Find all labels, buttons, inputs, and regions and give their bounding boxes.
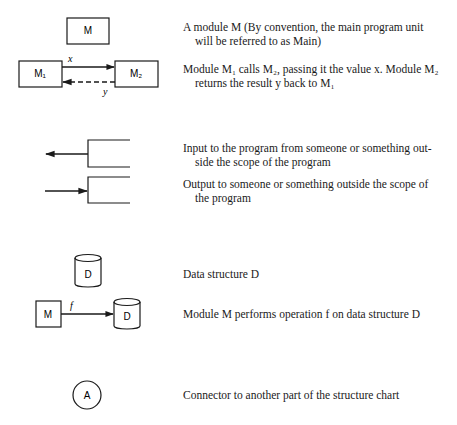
operation-description: Module M performs operation f on data st… <box>183 307 453 321</box>
call-desc-line1: Module M₁ calls M₂, passing it the value… <box>183 63 438 75</box>
operation-desc-line1: Module M performs operation f on data st… <box>183 308 420 320</box>
data-structure-description: Data structure D <box>183 267 453 281</box>
output-desc-line1: Output to someone or something outside t… <box>183 178 428 190</box>
call-desc-line2: returns the result y back to M₁ <box>183 76 453 90</box>
param-label: x <box>67 53 73 64</box>
data-structure-label: D <box>84 269 91 280</box>
connector-symbol: A <box>73 381 101 409</box>
operation-ds-label: D <box>123 311 130 322</box>
call-description: Module M₁ calls M₂, passing it the value… <box>183 62 453 90</box>
input-desc-line2: side the scope of the program <box>183 155 453 169</box>
output-symbol <box>45 177 130 203</box>
return-label: y <box>102 86 108 97</box>
operation-module-label: M <box>44 309 52 320</box>
input-description: Input to the program from someone or som… <box>183 141 453 169</box>
data-structure-symbol: D <box>75 255 101 288</box>
operation-symbol: M f D <box>36 299 140 330</box>
module-desc-line2: will be referred to as Main) <box>183 34 453 48</box>
input-symbol <box>46 140 130 167</box>
connector-label: A <box>84 390 91 401</box>
module-label: M <box>84 25 92 36</box>
output-desc-line2: the program <box>183 191 453 205</box>
module-desc-line1: A module M (By convention, the main prog… <box>183 21 424 33</box>
input-desc-line1: Input to the program from someone or som… <box>183 142 431 154</box>
output-description: Output to someone or something outside t… <box>183 177 453 205</box>
connector-description: Connector to another part of the structu… <box>183 388 453 402</box>
operation-f-label: f <box>70 300 74 311</box>
caller-module-label: M₁ <box>34 68 46 79</box>
module-symbol: M <box>67 18 109 44</box>
connector-desc-line1: Connector to another part of the structu… <box>183 389 399 401</box>
module-call-symbol: M₁ M₂ x y <box>19 53 158 97</box>
module-description: A module M (By convention, the main prog… <box>183 20 453 48</box>
callee-module-label: M₂ <box>130 68 142 79</box>
data-structure-desc-line1: Data structure D <box>183 268 259 280</box>
